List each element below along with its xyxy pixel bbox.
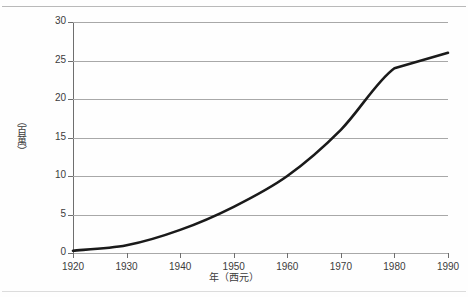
x-tick-label: 1920 — [50, 261, 96, 272]
x-tick-label: 1930 — [104, 261, 150, 272]
y-tick-label: 0 — [60, 247, 66, 257]
x-tick-mark — [234, 253, 235, 258]
y-tick-mark — [68, 176, 73, 177]
x-tick-label: 1960 — [264, 261, 310, 272]
y-tick-label: 5 — [60, 209, 66, 219]
plot-area — [73, 22, 448, 253]
y-tick-mark — [68, 99, 73, 100]
x-tick-mark — [73, 253, 74, 258]
y-tick-mark — [68, 22, 73, 23]
y-tick-mark — [68, 138, 73, 139]
y-tick-label: 30 — [55, 16, 66, 26]
gridline — [73, 253, 448, 254]
x-tick-label: 1990 — [425, 261, 468, 272]
page-top-rule — [2, 6, 466, 7]
chart-figure: （百萬） 302520151050 1920193019401950196019… — [0, 0, 468, 297]
y-tick-mark — [68, 253, 73, 254]
x-tick-label: 1950 — [211, 261, 257, 272]
x-tick-mark — [287, 253, 288, 258]
x-tick-mark — [448, 253, 449, 258]
y-axis-tick-labels: 302520151050 — [0, 0, 66, 297]
y-tick-mark — [68, 61, 73, 62]
y-tick-label: 25 — [55, 55, 66, 65]
page-bottom-rule — [2, 291, 466, 292]
x-tick-mark — [394, 253, 395, 258]
x-tick-mark — [341, 253, 342, 258]
y-tick-label: 15 — [55, 132, 66, 142]
x-axis-title: 年（西元） — [0, 272, 468, 284]
series-path — [73, 53, 448, 251]
x-tick-label: 1980 — [371, 261, 417, 272]
x-tick-label: 1970 — [318, 261, 364, 272]
x-tick-label: 1940 — [157, 261, 203, 272]
x-tick-mark — [180, 253, 181, 258]
x-tick-mark — [127, 253, 128, 258]
data-series-line — [73, 22, 448, 253]
y-tick-label: 10 — [55, 170, 66, 180]
y-tick-label: 20 — [55, 93, 66, 103]
y-tick-mark — [68, 215, 73, 216]
